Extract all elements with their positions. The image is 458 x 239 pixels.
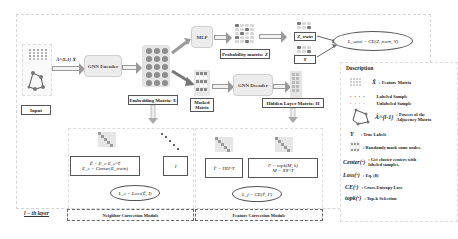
feature-formula-right: F = topk(M, k) M = XX^T <box>248 158 318 178</box>
graph-icon <box>25 69 51 93</box>
to-loss-arrows <box>316 30 338 60</box>
masked-to-decoder-arrow <box>212 84 228 89</box>
legend-mask: : Randomly mask some nodes. <box>350 142 421 152</box>
mlp-to-probability-arrow <box>214 35 226 40</box>
gnn-decoder: GNN Decoder <box>233 74 273 96</box>
embedding-down-arrow <box>148 105 158 125</box>
gnn-encoder: GNN Encoder <box>84 55 122 77</box>
embedding-matrix <box>142 45 170 87</box>
embedding-to-masked-arrow <box>170 68 196 88</box>
identity-dots <box>160 132 180 152</box>
hidden-label: Hidden Layer Matrix: H <box>262 98 324 108</box>
neighbor-heatmap <box>98 132 116 147</box>
neighbor-module-label: Neighbor Correction Module <box>67 209 194 221</box>
probability-label: Probability matrix: Z <box>220 49 270 59</box>
legend-adjacency: Â^{l-1} : Powers of the Adjacency Matrix <box>350 108 436 126</box>
ztrain-box: Z_train <box>294 32 316 41</box>
legend-loss: Loss(·) : Eq. (8) <box>343 172 378 178</box>
legend-ce: CE(·) : Cross-Entropy Loss <box>345 184 402 190</box>
hidden-matrix <box>290 71 302 99</box>
input-to-encoder-arrow <box>52 66 79 71</box>
neighbor-formula-box: Ê = E_c E_c^T E_c = Center(E_train) <box>70 156 140 176</box>
legend-topk: topk(·) : Top-k Selection <box>345 195 396 201</box>
feature-module-label: Feature Correction Module <box>195 209 323 221</box>
feature-heatmap-left <box>215 137 233 152</box>
semi-loss-ellipse: L_semi = CE(Z_train, Y) <box>333 31 413 51</box>
masked-label: Masked Matrix <box>190 98 214 112</box>
identity-box: I <box>163 156 188 176</box>
feature-formula-left: F̂ = HH^T <box>205 158 243 178</box>
mlp-block: MLP <box>191 26 213 48</box>
embedding-to-mlp-arrow <box>170 35 192 57</box>
layer-label: l − th layer <box>24 210 49 217</box>
legend-true-labels: Y : True Labels <box>350 131 386 137</box>
masked-matrix <box>194 70 210 96</box>
graph-legend-icon <box>350 108 372 126</box>
probability-matrix <box>235 24 254 44</box>
probability-to-ztrain-arrow <box>259 34 281 39</box>
neighbor-formula-line2: E_c = Center(E_train) <box>82 166 128 171</box>
legend-labeled: • • • • Labeled Sample <box>350 94 408 99</box>
feature-matrix-icon <box>29 49 48 60</box>
legend-feature-matrix: X̂ : Feature Matrix <box>350 78 411 86</box>
y-box: Y <box>294 55 316 64</box>
hidden-down-arrow <box>288 108 298 124</box>
feature-loss-ellipse: L_f = CE(F̂, F) <box>232 186 282 202</box>
mask-legend-icon <box>350 142 360 152</box>
ztrain-rows <box>297 22 311 30</box>
legend-unlabeled: • • • • Unlabeled Sample <box>350 101 412 106</box>
feature-heatmap-right <box>275 137 293 152</box>
input-label: Input <box>21 105 51 115</box>
embedding-label: Embedding Matrix: E <box>128 95 178 105</box>
neighbor-loss-ellipse: L_c = Loss(Ê, I) <box>110 185 160 201</box>
y-rows <box>297 46 311 54</box>
edge-label: Â^{l-1} X̂ <box>56 57 76 62</box>
description-title: Description <box>346 65 373 71</box>
feature-formula-right-line2: M = XX^T <box>272 168 293 173</box>
input-panel <box>22 44 52 96</box>
feature-matrix-legend-icon <box>350 78 361 86</box>
encoder-to-embedding-arrow <box>122 65 136 70</box>
legend-center: Center(·) : Get cluster centers with lab… <box>343 157 423 167</box>
decoder-to-hidden-arrow <box>273 84 285 89</box>
